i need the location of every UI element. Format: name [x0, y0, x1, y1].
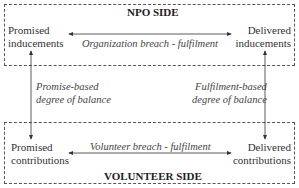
arrows-layer: [0, 0, 299, 188]
